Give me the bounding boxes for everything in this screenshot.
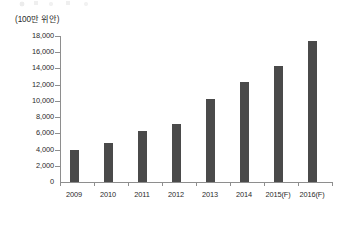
bar-chart-figure: (100만 위안) 02,0004,0006,0008,00010,00012,…	[0, 0, 342, 226]
plot-area: 02,0004,0006,0008,00010,00012,00014,0001…	[0, 0, 342, 226]
y-tick-label: 10,000	[8, 97, 54, 105]
y-tick-mark	[55, 166, 60, 167]
y-tick-label: 14,000	[8, 64, 54, 72]
x-tick-label: 2011	[134, 190, 150, 199]
y-tick-mark	[55, 68, 60, 69]
y-tick-mark	[55, 150, 60, 151]
y-tick-label: 16,000	[8, 48, 54, 56]
y-axis-line	[60, 36, 61, 182]
x-tick-label: 2013	[202, 190, 218, 199]
x-tick-mark	[60, 182, 61, 186]
y-axis-tick-labels: 02,0004,0006,0008,00010,00012,00014,0001…	[8, 0, 54, 226]
x-tick-mark	[162, 182, 163, 186]
x-tick-mark	[230, 182, 231, 186]
x-tick-mark	[196, 182, 197, 186]
x-tick-mark	[94, 182, 95, 186]
bar	[308, 41, 317, 182]
y-tick-mark	[55, 117, 60, 118]
y-tick-mark	[55, 85, 60, 86]
bar	[138, 131, 147, 182]
bar	[274, 66, 283, 182]
bar	[206, 99, 215, 182]
x-tick-label: 2009	[66, 190, 82, 199]
x-tick-mark	[332, 182, 333, 186]
x-tick-mark	[264, 182, 265, 186]
bar	[240, 82, 249, 182]
bar	[172, 124, 181, 182]
y-tick-label: 2,000	[8, 162, 54, 170]
y-tick-mark	[55, 101, 60, 102]
y-tick-label: 4,000	[8, 146, 54, 154]
y-tick-label: 0	[8, 178, 54, 186]
bar	[70, 150, 79, 182]
y-tick-mark	[55, 52, 60, 53]
y-tick-label: 8,000	[8, 113, 54, 121]
x-tick-mark	[128, 182, 129, 186]
x-tick-label: 2012	[168, 190, 184, 199]
y-tick-label: 6,000	[8, 129, 54, 137]
x-tick-mark	[298, 182, 299, 186]
x-tick-label: 2010	[100, 190, 116, 199]
y-tick-label: 18,000	[8, 32, 54, 40]
y-tick-label: 12,000	[8, 81, 54, 89]
x-tick-label: 2014	[236, 190, 252, 199]
x-tick-label: 2016(F)	[299, 190, 324, 199]
x-tick-label: 2015(F)	[265, 190, 290, 199]
y-tick-mark	[55, 36, 60, 37]
bar	[104, 143, 113, 182]
y-tick-mark	[55, 133, 60, 134]
